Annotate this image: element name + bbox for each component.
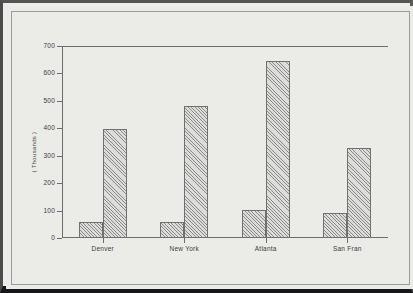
window-frame: ( Thousands ) 0100200300400500600700 Den… xyxy=(0,0,413,293)
x-axis-tick xyxy=(103,238,104,243)
y-axis-tick xyxy=(57,238,62,239)
y-axis-tick xyxy=(57,128,62,129)
y-axis-tick-label: 600 xyxy=(44,70,55,77)
bar-new-york-series-2 xyxy=(184,106,208,238)
y-axis-tick-label: 100 xyxy=(44,207,55,214)
x-axis-tick xyxy=(184,238,185,243)
y-axis-tick xyxy=(57,211,62,212)
bar-denver-series-1 xyxy=(79,222,103,238)
y-axis-tick-label: 200 xyxy=(44,180,55,187)
x-axis-label-atlanta: Atlanta xyxy=(255,246,277,253)
x-axis-label-san-fran: San Fran xyxy=(333,246,362,253)
y-axis-tick xyxy=(57,183,62,184)
bar-san-fran-series-1 xyxy=(323,213,347,238)
y-axis-tick-label: 300 xyxy=(44,152,55,159)
bar-san-fran-series-2 xyxy=(347,148,371,238)
x-axis-tick xyxy=(266,238,267,243)
chart-canvas: ( Thousands ) 0100200300400500600700 Den… xyxy=(6,6,413,289)
y-axis-tick xyxy=(57,156,62,157)
y-axis-tick xyxy=(57,46,62,47)
bar-atlanta-series-1 xyxy=(242,210,266,238)
y-axis-tick-label: 700 xyxy=(44,43,55,50)
y-axis-tick-label: 0 xyxy=(51,235,55,242)
y-axis-title: ( Thousands ) xyxy=(31,132,37,173)
y-axis-tick-label: 400 xyxy=(44,125,55,132)
x-axis-tick xyxy=(347,238,348,243)
y-axis-tick-label: 500 xyxy=(44,98,55,105)
x-axis-label-denver: Denver xyxy=(92,246,114,253)
y-axis-tick xyxy=(57,73,62,74)
bar-atlanta-series-2 xyxy=(266,61,290,238)
bar-denver-series-2 xyxy=(103,129,127,238)
x-axis-label-new-york: New York xyxy=(170,246,199,253)
plot-area: 0100200300400500600700 DenverNew YorkAtl… xyxy=(62,46,388,238)
y-axis-tick xyxy=(57,101,62,102)
bar-new-york-series-1 xyxy=(160,222,184,238)
